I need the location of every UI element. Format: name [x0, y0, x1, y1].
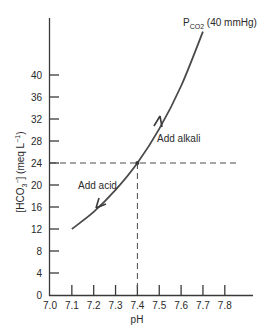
y-tick-label: 12	[31, 224, 43, 235]
arrow-down-icon	[96, 198, 106, 208]
x-tick-label: 7.3	[109, 300, 123, 311]
y-tick-label: 28	[31, 136, 43, 147]
y-tick-label: 4	[36, 268, 42, 279]
annotation-add-alkali: Add alkali	[157, 133, 200, 144]
x-tick-label: 7.4	[130, 300, 144, 311]
y-axis-label: [HCO3−] (meq L−1)	[14, 131, 28, 212]
curve-label: PCO2 (40 mmHg)	[183, 17, 257, 30]
x-tick-label: 7.5	[152, 300, 166, 311]
axes	[49, 18, 253, 296]
y-ticks: 0481216202428323640	[31, 70, 59, 301]
y-tick-label: 40	[31, 70, 43, 81]
y-tick-label: 16	[31, 202, 43, 213]
x-tick-label: 7.1	[65, 300, 79, 311]
y-tick-label: 20	[31, 180, 43, 191]
x-tick-label: 7.0	[43, 300, 57, 311]
x-tick-label: 7.2	[87, 300, 101, 311]
x-tick-label: 7.6	[174, 300, 188, 311]
y-tick-label: 8	[36, 246, 42, 257]
y-tick-label: 24	[31, 158, 43, 169]
y-tick-label: 0	[36, 290, 42, 301]
x-tick-label: 7.8	[218, 300, 232, 311]
x-tick-label: 7.7	[196, 300, 210, 311]
chart: 0481216202428323640 7.07.17.27.37.47.57.…	[0, 0, 271, 335]
annotation-add-acid: Add acid	[78, 180, 117, 191]
y-tick-label: 32	[31, 114, 43, 125]
x-axis-label: pH	[131, 314, 144, 325]
pco2-isobar-curve	[72, 32, 203, 229]
y-tick-label: 36	[31, 92, 43, 103]
normal-point-marker	[135, 161, 139, 165]
direction-arrows	[96, 116, 162, 208]
